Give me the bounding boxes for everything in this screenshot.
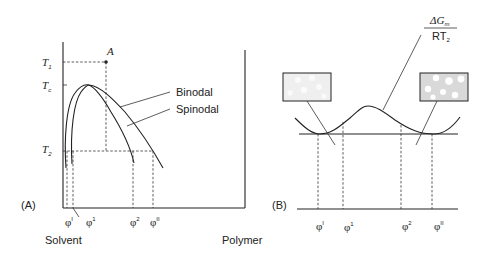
panel-b-label: (B)	[272, 199, 287, 211]
concentrated-inset-leader	[416, 101, 437, 145]
panel-a: T1 Tc T2 A Binodal Spinodal φI φ1 φ2 φII…	[21, 42, 263, 246]
dilute-inset-leader	[307, 101, 335, 145]
b-phi-II-label: φII	[434, 220, 444, 232]
b-phi-2-label: φ2	[402, 220, 412, 232]
panel-b: ΔGm RT2 φI φ1 φ2 φII (B)	[272, 14, 468, 233]
phi-leader-mark	[73, 208, 79, 217]
b-phi-1-label: φ1	[344, 221, 354, 233]
spinodal-leader	[127, 109, 170, 126]
phi-2-label: φ2	[130, 216, 140, 228]
phi-I-label: φI	[65, 216, 73, 228]
spinodal-curve	[71, 85, 134, 164]
binodal-label: Binodal	[176, 86, 213, 98]
solvent-label: Solvent	[45, 234, 82, 246]
free-energy-leader	[383, 35, 421, 110]
tc-label: Tc	[42, 79, 51, 93]
delta-g-numerator: ΔGm	[429, 14, 449, 27]
t2-label: T2	[42, 143, 52, 157]
phi-1-label: φ1	[86, 216, 96, 228]
dilute-phase-inset	[283, 73, 331, 101]
concentrated-phase-inset	[420, 73, 468, 101]
panel-a-label: (A)	[21, 199, 36, 211]
polymer-label: Polymer	[222, 234, 263, 246]
point-a-label: A	[106, 45, 114, 57]
b-phi-I-label: φI	[316, 220, 324, 232]
phase-diagram-figure: T1 Tc T2 A Binodal Spinodal φI φ1 φ2 φII…	[0, 0, 484, 258]
free-energy-curve	[295, 106, 460, 134]
rt-denominator: RT2	[432, 30, 450, 43]
binodal-leader	[120, 92, 170, 107]
phi-II-label: φII	[150, 216, 160, 228]
spinodal-label: Spinodal	[176, 103, 219, 115]
binodal-curve	[65, 85, 163, 168]
t1-label: T1	[42, 56, 51, 70]
